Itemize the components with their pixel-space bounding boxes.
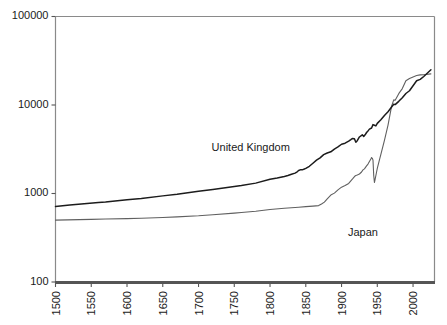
- x-tick-label: 1900: [336, 291, 348, 315]
- x-tick-label: 2000: [407, 291, 419, 315]
- x-tick-label: 1500: [50, 291, 62, 315]
- series-annotation-label: Japan: [348, 226, 378, 238]
- line-chart: 100000100001000100 150015501600165017001…: [0, 0, 447, 325]
- x-tick-label: 1600: [121, 291, 133, 315]
- chart-container: 100000100001000100 150015501600165017001…: [0, 0, 447, 325]
- x-tick-label: 1700: [193, 291, 205, 315]
- x-tick-label: 1850: [300, 291, 312, 315]
- y-tick-label: 100000: [12, 9, 49, 21]
- x-tick-label: 1650: [157, 291, 169, 315]
- x-tick-label: 1550: [85, 291, 97, 315]
- chart-background: [0, 0, 447, 325]
- x-tick-label: 1800: [264, 291, 276, 315]
- y-tick-label: 100: [30, 275, 48, 287]
- y-tick-label: 1000: [24, 186, 48, 198]
- x-tick-label: 1750: [228, 291, 240, 315]
- x-tick-label: 1950: [371, 291, 383, 315]
- y-tick-label: 10000: [18, 98, 49, 110]
- series-annotation-label: United Kingdom: [212, 141, 290, 153]
